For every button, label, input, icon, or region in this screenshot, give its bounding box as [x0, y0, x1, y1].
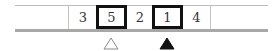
array-right-divider	[210, 5, 211, 29]
filled-triangle-marker-icon	[159, 37, 175, 50]
array-cell-3-highlighted: 1	[152, 5, 183, 29]
array-cell-1-highlighted: 5	[96, 5, 127, 29]
array-cell-4: 4	[183, 5, 210, 29]
array-cell-2: 2	[127, 5, 153, 29]
array-cell-0: 3	[69, 5, 97, 29]
hollow-triangle-marker-icon	[103, 37, 119, 50]
array-base-bar	[15, 29, 268, 32]
